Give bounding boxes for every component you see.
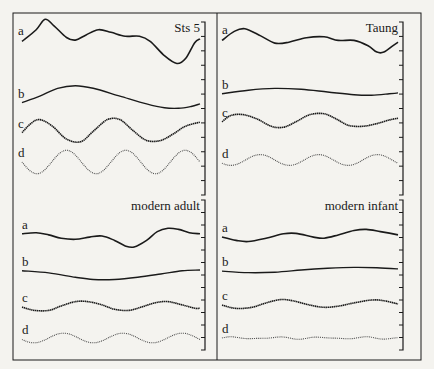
curve-label: b — [222, 254, 229, 269]
figure: Sts 5abcdTaungabcdmodern adultabcdmodern… — [0, 0, 434, 369]
curve-c — [22, 118, 200, 142]
curve-label: b — [18, 86, 25, 101]
curve-label: a — [222, 22, 228, 37]
curve-label: c — [18, 116, 24, 131]
curve-b — [22, 270, 200, 280]
panel-title: Taung — [366, 20, 399, 35]
panel-sts5: Sts 5abcd — [18, 19, 205, 195]
panel-taung: Taungabcd — [222, 20, 403, 195]
curve-d — [22, 150, 200, 173]
panel-modern-infant: modern infantabcd — [222, 198, 403, 350]
curve-b — [22, 86, 200, 109]
curve-label: a — [22, 217, 28, 232]
panel-modern-adult: modern adultabcd — [22, 198, 205, 350]
curve-c — [22, 301, 200, 311]
curve-b — [222, 267, 398, 272]
curve-label: d — [222, 321, 229, 336]
curve-a — [222, 229, 398, 241]
curve-a — [22, 228, 200, 247]
panel-title: modern adult — [131, 198, 200, 213]
curve-label: a — [222, 220, 228, 235]
curve-b — [222, 88, 398, 95]
curve-label: c — [22, 290, 28, 305]
panel-title: Sts 5 — [174, 20, 200, 35]
curve-d — [222, 337, 398, 340]
curve-label: d — [22, 322, 29, 337]
curve-d — [222, 155, 398, 166]
curve-c — [222, 113, 398, 127]
curve-label: d — [222, 146, 229, 161]
curve-label: a — [18, 23, 24, 38]
curve-c — [222, 299, 398, 308]
curve-d — [22, 333, 200, 343]
curve-label: c — [222, 105, 228, 120]
curve-label: d — [18, 145, 25, 160]
panel-title: modern infant — [325, 198, 399, 213]
curve-label: c — [222, 288, 228, 303]
curve-a — [22, 19, 200, 63]
curve-label: b — [222, 77, 229, 92]
curve-label: b — [22, 254, 29, 269]
